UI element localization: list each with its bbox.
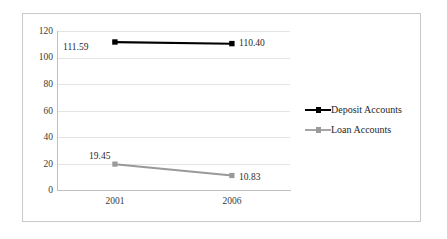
x-tick-label-2001: 2001 bbox=[90, 196, 140, 207]
series-loan-accounts bbox=[112, 162, 234, 179]
series-deposit-marker-2001 bbox=[112, 39, 117, 44]
data-label-loan-2006: 10.83 bbox=[239, 172, 260, 182]
legend-label-loan-accounts: Loan Accounts bbox=[331, 124, 391, 136]
legend-item-deposit-accounts[interactable]: Deposit Accounts bbox=[305, 100, 417, 120]
series-loan-line bbox=[115, 164, 232, 175]
series-loan-marker-2006 bbox=[229, 173, 234, 178]
legend-item-loan-accounts[interactable]: Loan Accounts bbox=[305, 120, 417, 140]
data-label-deposit-2001: 111.59 bbox=[63, 42, 88, 52]
data-label-loan-2001: 19.45 bbox=[89, 151, 110, 161]
line-chart-figure: 120 100 80 60 40 20 0 111.59 110.40 bbox=[0, 0, 447, 239]
x-tick-label-2006: 2006 bbox=[207, 196, 257, 207]
legend-swatch-loan-icon bbox=[305, 124, 331, 136]
series-deposit-accounts bbox=[112, 39, 234, 46]
legend-label-deposit-accounts: Deposit Accounts bbox=[331, 104, 402, 116]
series-deposit-marker-2006 bbox=[229, 41, 234, 46]
chart-legend: Deposit Accounts Loan Accounts bbox=[305, 100, 417, 140]
series-loan-marker-2001 bbox=[112, 162, 117, 167]
legend-swatch-deposit-icon bbox=[305, 104, 331, 116]
data-label-deposit-2006: 110.40 bbox=[239, 38, 265, 48]
series-deposit-line bbox=[115, 42, 232, 44]
